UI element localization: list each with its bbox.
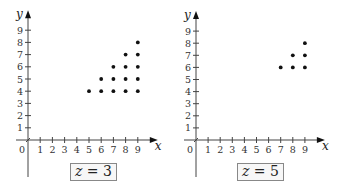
y-tick-label: 2: [185, 110, 191, 121]
x-tick-label: 8: [290, 144, 296, 155]
data-point: [124, 89, 128, 93]
data-point: [291, 53, 295, 57]
data-point: [303, 53, 307, 57]
data-point: [99, 77, 103, 81]
x-tick-label: 6: [98, 144, 104, 155]
data-point: [303, 41, 307, 45]
data-point: [279, 66, 283, 70]
y-tick-label: 9: [17, 25, 23, 36]
data-point: [99, 89, 103, 93]
caption-equals: =: [249, 163, 270, 179]
y-axis-label: y: [15, 7, 23, 21]
data-point: [136, 77, 140, 81]
y-tick-label: 7: [185, 50, 191, 61]
chart-canvas: 1234567891234567890xy1234567891234567890…: [0, 0, 338, 191]
caption-z-3: z = 3: [70, 163, 117, 181]
y-axis-label: y: [183, 8, 191, 22]
data-point: [112, 65, 116, 69]
data-point: [112, 77, 116, 81]
x-tick-label: 3: [229, 144, 235, 155]
data-point: [136, 65, 140, 69]
y-tick-label: 2: [17, 110, 23, 121]
y-tick-label: 9: [185, 26, 191, 37]
x-tick-label: 6: [266, 144, 272, 155]
y-tick-label: 1: [17, 122, 23, 133]
x-tick-label: 9: [135, 144, 141, 155]
x-tick-label: 1: [205, 144, 211, 155]
x-tick-label: 1: [37, 144, 43, 155]
data-point: [87, 89, 91, 93]
caption-value: 3: [103, 163, 112, 179]
x-tick-label: 8: [123, 144, 129, 155]
y-tick-label: 3: [185, 98, 191, 109]
data-point: [291, 66, 295, 70]
y-tick-label: 5: [185, 74, 191, 85]
y-tick-label: 5: [17, 74, 23, 85]
y-tick-label: 8: [17, 37, 23, 48]
x-tick-label: 3: [62, 144, 68, 155]
y-tick-label: 3: [17, 98, 23, 109]
y-tick-label: 1: [185, 122, 191, 133]
y-tick-label: 4: [185, 86, 191, 97]
x-axis-label: x: [155, 139, 162, 153]
x-tick-label: 4: [74, 144, 80, 155]
data-point: [136, 53, 140, 57]
origin-label: 0: [19, 144, 25, 155]
y-axis-arrow-icon: [193, 11, 199, 19]
x-tick-label: 2: [217, 144, 223, 155]
y-axis-arrow-icon: [25, 10, 31, 18]
x-tick-label: 9: [302, 144, 308, 155]
y-tick-label: 4: [17, 86, 23, 97]
data-point: [112, 89, 116, 93]
data-point: [124, 65, 128, 69]
x-tick-label: 7: [278, 144, 284, 155]
data-point: [124, 77, 128, 81]
y-tick-label: 8: [185, 38, 191, 49]
data-point: [136, 89, 140, 93]
data-point: [303, 66, 307, 70]
y-tick-label: 6: [17, 61, 23, 72]
data-point: [136, 41, 140, 45]
x-tick-label: 5: [253, 144, 259, 155]
origin-label: 0: [187, 144, 193, 155]
x-axis-label: x: [322, 139, 329, 153]
x-tick-label: 5: [86, 144, 92, 155]
y-tick-label: 7: [17, 49, 23, 60]
x-tick-label: 7: [110, 144, 116, 155]
y-tick-label: 6: [185, 62, 191, 73]
x-tick-label: 4: [241, 144, 247, 155]
x-tick-label: 2: [49, 144, 55, 155]
caption-equals: =: [82, 163, 103, 179]
data-point: [124, 53, 128, 57]
caption-z-5: z = 5: [237, 163, 284, 181]
caption-value: 5: [270, 163, 279, 179]
